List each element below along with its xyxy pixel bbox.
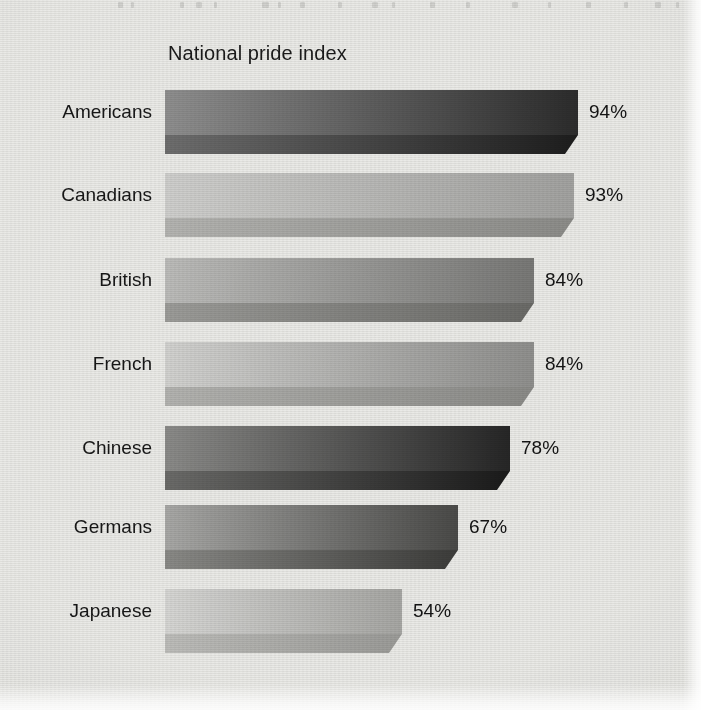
bar-top-face <box>165 258 534 303</box>
bar-japanese <box>165 589 402 653</box>
bar-bottom-extrusion-face <box>165 387 534 406</box>
bar-bottom-extrusion-face <box>165 550 458 569</box>
bar-row: French84% <box>0 342 701 406</box>
bar-row: Germans67% <box>0 505 701 569</box>
bar-british <box>165 258 534 322</box>
bar-bottom-extrusion-face <box>165 218 574 237</box>
bar-category-label: Japanese <box>0 600 152 622</box>
bar-chart-plot-area: Americans94%Canadians93%British84%French… <box>0 0 701 710</box>
bar-bottom-extrusion-face <box>165 303 534 322</box>
bar-value-label: 93% <box>585 184 623 206</box>
bar-row: Americans94% <box>0 90 701 154</box>
bar-top-face <box>165 342 534 387</box>
bar-value-label: 54% <box>413 600 451 622</box>
bar-category-label: French <box>0 353 152 375</box>
bar-category-label: Americans <box>0 101 152 123</box>
bar-category-label: Germans <box>0 516 152 538</box>
bar-top-face <box>165 173 574 218</box>
bar-french <box>165 342 534 406</box>
bar-row: Japanese54% <box>0 589 701 653</box>
bar-bottom-extrusion-face <box>165 634 402 653</box>
bar-row: British84% <box>0 258 701 322</box>
bar-germans <box>165 505 458 569</box>
bar-top-face <box>165 90 578 135</box>
bar-row: Canadians93% <box>0 173 701 237</box>
bar-top-face <box>165 505 458 550</box>
bar-bottom-extrusion-face <box>165 135 578 154</box>
bar-bottom-extrusion-face <box>165 471 510 490</box>
bar-americans <box>165 90 578 154</box>
bar-row: Chinese78% <box>0 426 701 490</box>
bar-top-face <box>165 589 402 634</box>
bar-value-label: 84% <box>545 353 583 375</box>
chart-page: Americans94%Canadians93%British84%French… <box>0 0 701 710</box>
bar-category-label: Chinese <box>0 437 152 459</box>
bar-chinese <box>165 426 510 490</box>
chart-title: National pride index <box>168 42 347 65</box>
bar-value-label: 78% <box>521 437 559 459</box>
bar-value-label: 67% <box>469 516 507 538</box>
bar-canadians <box>165 173 574 237</box>
bar-value-label: 84% <box>545 269 583 291</box>
bar-value-label: 94% <box>589 101 627 123</box>
bar-top-face <box>165 426 510 471</box>
bar-category-label: Canadians <box>0 184 152 206</box>
bar-category-label: British <box>0 269 152 291</box>
